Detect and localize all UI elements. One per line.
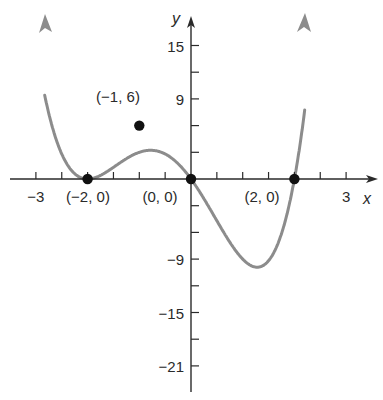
y-tick-label: −15 <box>159 305 184 322</box>
y-axis-label: y <box>171 10 181 27</box>
x-tick-label: 3 <box>342 188 350 205</box>
point-label: (−2, 0) <box>66 188 110 205</box>
x-tick-label: −3 <box>27 188 44 205</box>
point-marker <box>134 120 144 130</box>
curve-left-arrow-icon <box>39 14 52 33</box>
y-tick-label: 15 <box>167 38 184 55</box>
point-marker <box>289 174 299 184</box>
y-tick-label: 9 <box>176 91 184 108</box>
polynomial-graph: −33 159−9−15−21 x y (−2, 0)(−1, 6)(0, 0)… <box>0 0 383 400</box>
y-tick-label: −21 <box>159 358 184 375</box>
point-marker <box>186 174 196 184</box>
point-label: (0, 0) <box>142 188 177 205</box>
curve-right-arrow-icon <box>297 13 311 32</box>
point-label: (2, 0) <box>244 188 279 205</box>
y-tick-label: −9 <box>167 251 184 268</box>
point-marker <box>82 174 92 184</box>
x-axis-label: x <box>362 190 372 207</box>
y-ticks: 159−9−15−21 <box>159 38 199 375</box>
point-label: (−1, 6) <box>96 88 140 105</box>
